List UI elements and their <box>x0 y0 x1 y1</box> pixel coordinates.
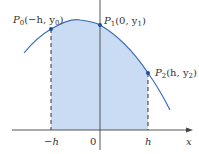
diagram-canvas: P0(−h, y0) P1(0, y1) P2(h, y2) −h 0 h x <box>0 0 199 154</box>
label-p1: P1(0, y1) <box>103 15 146 28</box>
label-p2: P2(h, y2) <box>154 67 197 80</box>
x-axis-label: x <box>186 136 192 147</box>
shaded-area <box>51 20 148 130</box>
point-p0 <box>49 27 53 31</box>
label-p0: P0(−h, y0) <box>12 14 63 27</box>
x-axis-arrow-icon <box>186 128 193 133</box>
point-p2 <box>146 71 150 75</box>
point-p1 <box>98 23 102 27</box>
tick-label-neg-h: −h <box>44 136 59 147</box>
tick-label-h: h <box>145 136 151 147</box>
tick-label-zero: 0 <box>90 136 96 147</box>
